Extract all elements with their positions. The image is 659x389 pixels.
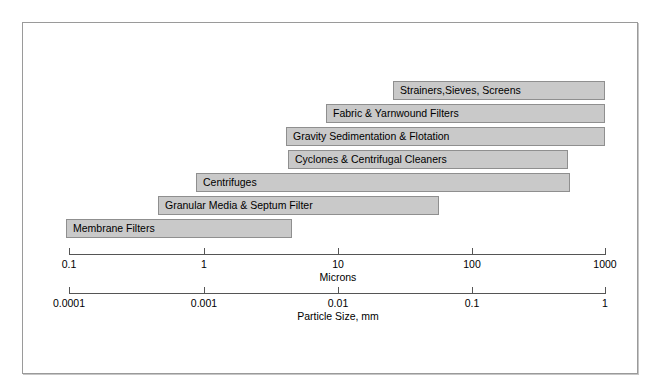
bar-membrane-filters: Membrane Filters — [66, 219, 292, 238]
bar-gravity-sedimentation-flotation: Gravity Sedimentation & Flotation — [286, 127, 605, 146]
microns-axis-tick — [605, 248, 606, 254]
bar-label: Strainers,Sieves, Screens — [394, 85, 521, 96]
microns-axis-tick-label: 100 — [463, 259, 481, 270]
mm-axis-tick — [605, 287, 606, 293]
microns-axis-title: Microns — [320, 272, 357, 283]
microns-axis-tick — [338, 248, 339, 254]
mm-axis-tick — [204, 287, 205, 293]
microns-axis-tick — [472, 248, 473, 254]
bar-centrifuges: Centrifuges — [196, 173, 570, 192]
bar-label: Membrane Filters — [67, 223, 155, 234]
figure-frame: Strainers,Sieves, Screens Fabric & Yarnw… — [22, 22, 638, 374]
bar-label: Centrifuges — [197, 177, 257, 188]
microns-axis-line — [69, 254, 606, 255]
bar-label: Fabric & Yarnwound Filters — [327, 108, 459, 119]
microns-axis-tick-label: 1000 — [593, 259, 616, 270]
bar-cyclones-centrifugal-cleaners: Cyclones & Centrifugal Cleaners — [288, 150, 568, 169]
microns-axis-tick-label: 10 — [332, 259, 344, 270]
mm-axis-tick-label: 1 — [602, 298, 608, 309]
bar-fabric-yarnwound-filters: Fabric & Yarnwound Filters — [326, 104, 605, 123]
bar-strainers-sieves-screens: Strainers,Sieves, Screens — [393, 81, 605, 100]
mm-axis-tick-label: 0.01 — [328, 298, 348, 309]
mm-axis-title: Particle Size, mm — [297, 311, 379, 322]
mm-axis-tick — [338, 287, 339, 293]
mm-axis-tick-label: 0.1 — [465, 298, 480, 309]
bar-label: Gravity Sedimentation & Flotation — [287, 131, 449, 142]
mm-axis-tick-label: 0.0001 — [53, 298, 85, 309]
mm-axis-tick-label: 0.001 — [191, 298, 217, 309]
bar-label: Granular Media & Septum Filter — [159, 200, 313, 211]
mm-axis-tick — [69, 287, 70, 293]
mm-axis-tick — [472, 287, 473, 293]
plot-area: Strainers,Sieves, Screens Fabric & Yarnw… — [23, 23, 639, 375]
microns-axis-tick-label: 0.1 — [62, 259, 77, 270]
microns-axis-tick-label: 1 — [201, 259, 207, 270]
bar-label: Cyclones & Centrifugal Cleaners — [289, 154, 447, 165]
bar-granular-media-septum-filter: Granular Media & Septum Filter — [158, 196, 439, 215]
microns-axis-tick — [69, 248, 70, 254]
mm-axis-line — [69, 293, 606, 294]
microns-axis-tick — [204, 248, 205, 254]
